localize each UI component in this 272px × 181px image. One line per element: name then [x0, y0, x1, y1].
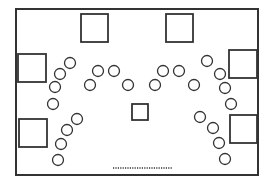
table-top-left	[81, 14, 108, 42]
seat-circle	[109, 66, 120, 77]
seat-circle	[65, 58, 76, 69]
table-left-upper	[18, 54, 46, 82]
seat-circle	[214, 138, 225, 149]
seat-circle	[50, 82, 61, 93]
seat-circle	[56, 139, 67, 150]
seat-circle	[220, 154, 231, 165]
table-center	[132, 104, 148, 120]
table-left-lower	[19, 119, 47, 147]
seat-circle	[215, 69, 226, 80]
table-right-lower	[230, 115, 257, 143]
seat-circle	[48, 99, 59, 110]
seat-circle	[53, 155, 64, 166]
seat-circle	[189, 80, 200, 91]
seat-circle	[93, 66, 104, 77]
table-top-right	[166, 14, 193, 42]
seat-circle	[123, 80, 134, 91]
table-right-upper	[229, 50, 257, 78]
seat-circle	[226, 99, 237, 110]
seat-circle	[208, 123, 219, 134]
seats-group	[48, 56, 237, 166]
seat-circle	[85, 80, 96, 91]
seat-circle	[195, 112, 206, 123]
seat-circle	[202, 56, 213, 67]
seat-circle	[174, 66, 185, 77]
seat-circle	[55, 69, 66, 80]
tables-group	[18, 14, 257, 147]
seat-circle	[62, 125, 73, 136]
seat-circle	[158, 66, 169, 77]
floor-plan-diagram	[0, 0, 272, 181]
seat-circle	[150, 80, 161, 91]
seat-circle	[220, 83, 231, 94]
seat-circle	[72, 114, 83, 125]
